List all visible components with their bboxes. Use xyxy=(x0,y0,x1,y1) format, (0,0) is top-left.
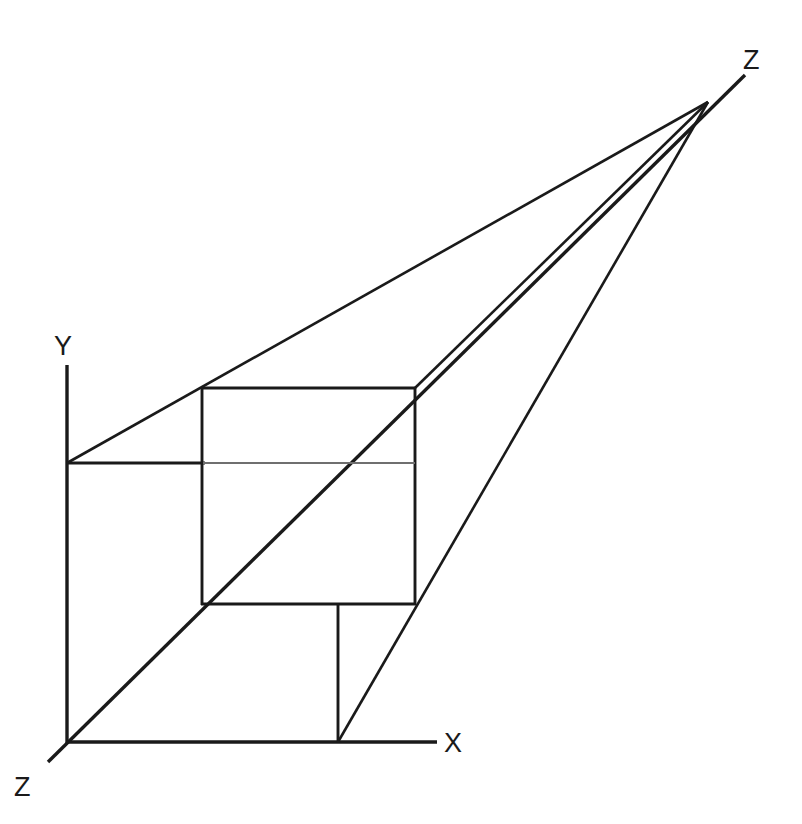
z-axis-group xyxy=(48,75,745,762)
y-axis-label: Y xyxy=(54,331,73,361)
x-axis-label: X xyxy=(444,728,463,758)
cube-near-face-group xyxy=(201,387,416,605)
ray-near-top-right-to-vanishing-point xyxy=(415,102,708,388)
perspective-diagram: Y X Z Z xyxy=(0,0,802,824)
z-axis-diagonal-line xyxy=(48,75,745,762)
vanishing-rays-group xyxy=(67,102,708,742)
z-axis-origin-label: Z xyxy=(14,772,31,802)
axes-group xyxy=(66,365,437,743)
ray-mid-left-to-vanishing-point xyxy=(67,102,708,463)
z-vanishing-point-label: Z xyxy=(743,45,760,75)
perspective-figure-svg: Y X Z Z xyxy=(0,0,802,824)
labels-group: Y X Z Z xyxy=(14,45,760,802)
